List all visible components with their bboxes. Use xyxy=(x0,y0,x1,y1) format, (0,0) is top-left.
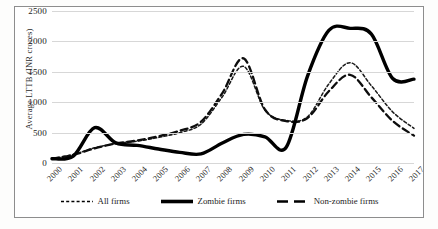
x-tick-label: 2001 xyxy=(66,164,85,183)
gridline xyxy=(52,72,414,73)
chart-figure: Average LTTB (INR crores) 05001000150020… xyxy=(0,0,438,229)
gridline xyxy=(52,41,414,42)
x-tick-label: 2003 xyxy=(109,164,128,183)
plot-area: 05001000150020002500 xyxy=(52,11,414,163)
x-tick-label: 2002 xyxy=(87,164,106,183)
gridline xyxy=(52,11,414,12)
y-tick-label: 0 xyxy=(42,158,47,168)
legend-item[interactable]: Zombie firms xyxy=(160,196,246,206)
x-tick-label: 2013 xyxy=(322,164,341,183)
y-tick-label: 1500 xyxy=(28,67,47,77)
plot-wrapper: 05001000150020002500 xyxy=(52,11,414,163)
legend-label: Non-zombie firms xyxy=(314,196,379,206)
y-tick-label: 1000 xyxy=(28,97,47,107)
legend-item[interactable]: Non-zombie firms xyxy=(276,196,379,206)
gridline xyxy=(52,133,414,134)
x-tick-label: 2011 xyxy=(279,164,298,183)
legend-label: Zombie firms xyxy=(198,196,246,206)
x-tick-label: 2007 xyxy=(194,164,213,183)
series-line-non-zombie-firms xyxy=(52,58,414,159)
y-tick-label: 500 xyxy=(33,128,47,138)
series-line-all-firms xyxy=(52,63,414,159)
chart-legend: All firmsZombie firmsNon-zombie firms xyxy=(14,196,424,206)
gridline xyxy=(52,102,414,103)
x-tick-label: 2014 xyxy=(343,164,362,183)
x-tick-label: 2004 xyxy=(130,164,149,183)
legend-swatch-dashed xyxy=(276,197,310,206)
x-axis-labels: 2000200120022003200420052006200720082009… xyxy=(52,164,414,198)
series-layer xyxy=(52,11,414,163)
y-tick-label: 2000 xyxy=(28,36,47,46)
x-tick-label: 2015 xyxy=(364,164,383,183)
legend-swatch-dotted xyxy=(60,197,94,206)
x-tick-label: 2008 xyxy=(215,164,234,183)
x-tick-label: 2010 xyxy=(258,164,277,183)
legend-label: All firms xyxy=(98,196,130,206)
x-tick-label: 2006 xyxy=(172,164,191,183)
y-tick-label: 2500 xyxy=(28,6,47,16)
legend-item[interactable]: All firms xyxy=(60,196,130,206)
series-line-zombie-firms xyxy=(52,26,414,159)
x-tick-label: 2012 xyxy=(300,164,319,183)
x-tick-label: 2009 xyxy=(236,164,255,183)
x-tick-label: 2016 xyxy=(385,164,404,183)
legend-swatch-solid xyxy=(160,197,194,206)
x-tick-label: 2005 xyxy=(151,164,170,183)
